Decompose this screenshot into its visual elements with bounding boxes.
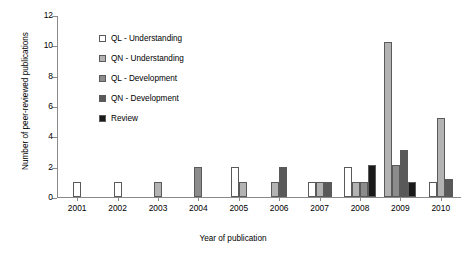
bar: [114, 182, 122, 197]
bar: [429, 182, 437, 197]
chart-legend: QL - UnderstandingQN - UnderstandingQL -…: [99, 28, 229, 128]
bar: [154, 182, 162, 197]
legend-item: QN - Understanding: [99, 48, 229, 68]
bar: [368, 165, 376, 197]
y-tick-label: 4: [48, 131, 53, 142]
x-tick-label: 2010: [431, 203, 450, 214]
bar-group: 2009: [380, 16, 420, 197]
bar: [344, 167, 352, 197]
x-tick-mark: [441, 197, 442, 201]
bar: [324, 182, 332, 197]
x-tick-label: 2001: [68, 203, 87, 214]
bar-group-inner: [340, 16, 380, 197]
bar-group: 2010: [421, 16, 461, 197]
bar-group-inner: [421, 16, 461, 197]
legend-item: QN - Development: [99, 88, 229, 108]
legend-swatch-icon: [99, 115, 106, 122]
y-tick-label: 0: [48, 192, 53, 203]
bar-group: 2006: [259, 16, 299, 197]
y-tick-label: 8: [48, 71, 53, 82]
bar-group-inner: [259, 16, 299, 197]
bar-group-inner: [299, 16, 339, 197]
y-axis-title: Number of peer-reviewed publications: [21, 1, 31, 201]
y-tick-label: 10: [44, 40, 53, 51]
legend-item: QL - Understanding: [99, 28, 229, 48]
x-tick-mark: [118, 197, 119, 201]
x-tick-label: 2007: [310, 203, 329, 214]
x-tick-mark: [360, 197, 361, 201]
y-tick-label: 6: [48, 101, 53, 112]
x-tick-label: 2006: [270, 203, 289, 214]
x-tick-mark: [158, 197, 159, 201]
x-tick-mark: [77, 197, 78, 201]
bar-group: 2008: [340, 16, 380, 197]
y-tick-label: 12: [44, 10, 53, 21]
bar-group: 2001: [57, 16, 97, 197]
x-tick-mark: [320, 197, 321, 201]
x-tick-label: 2009: [391, 203, 410, 214]
bar-group-inner: [57, 16, 97, 197]
bar: [231, 167, 239, 197]
bar-group: 2007: [299, 16, 339, 197]
x-tick-label: 2003: [149, 203, 168, 214]
legend-item-label: QN - Development: [111, 93, 179, 104]
x-tick-label: 2005: [229, 203, 248, 214]
bar: [352, 182, 360, 197]
legend-swatch-icon: [99, 95, 106, 102]
x-tick-label: 2002: [108, 203, 127, 214]
legend-swatch-icon: [99, 75, 106, 82]
x-tick-mark: [400, 197, 401, 201]
y-tick-label: 2: [48, 162, 53, 173]
bar: [360, 182, 368, 197]
x-tick-mark: [279, 197, 280, 201]
bar: [308, 182, 316, 197]
x-tick-mark: [239, 197, 240, 201]
legend-item: Review: [99, 108, 229, 128]
legend-item-label: QN - Understanding: [111, 53, 184, 64]
bar: [279, 167, 287, 197]
legend-swatch-icon: [99, 35, 106, 42]
bar: [384, 42, 392, 197]
bar: [445, 179, 453, 197]
legend-item-label: Review: [111, 113, 138, 124]
x-tick-label: 2008: [351, 203, 370, 214]
legend-item-label: QL - Development: [111, 73, 177, 84]
x-axis-title: Year of publication: [0, 233, 466, 244]
legend-item: QL - Development: [99, 68, 229, 88]
bar: [400, 150, 408, 197]
bar: [194, 167, 202, 197]
bar: [437, 118, 445, 197]
legend-item-label: QL - Understanding: [111, 33, 182, 44]
bar-chart: Number of peer-reviewed publications 024…: [0, 0, 466, 260]
bar: [316, 182, 324, 197]
bar: [392, 165, 400, 197]
x-tick-label: 2004: [189, 203, 208, 214]
x-tick-mark: [198, 197, 199, 201]
bar: [408, 182, 416, 197]
bar: [271, 182, 279, 197]
bar: [239, 182, 247, 197]
bar: [73, 182, 81, 197]
bar-group-inner: [380, 16, 420, 197]
legend-swatch-icon: [99, 55, 106, 62]
